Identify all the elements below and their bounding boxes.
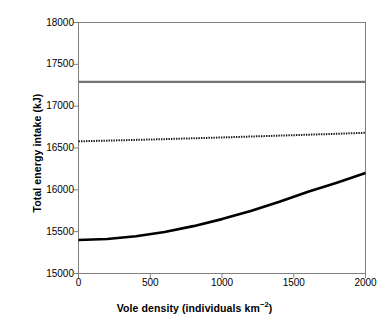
x-tick-label: 2000 <box>336 278 389 288</box>
x-axis-label-main: Vole density (individuals km <box>117 302 260 314</box>
y-tick-label: 17500 <box>14 59 74 69</box>
x-tick-label: 1000 <box>192 278 252 288</box>
axes-frame <box>79 23 366 274</box>
x-axis-label: Vole density (individuals km−2) <box>0 300 389 314</box>
y-tick-label: 18000 <box>14 18 74 28</box>
chart-figure: 15000155001600016500170001750018000 0500… <box>0 0 389 326</box>
x-tick-label: 0 <box>49 278 109 288</box>
series-middle-dotted-line <box>79 133 366 142</box>
x-axis-label-superscript: −2 <box>260 300 269 309</box>
data-series <box>79 82 366 240</box>
y-tick-label: 15500 <box>14 227 74 237</box>
y-tick-label: 15000 <box>14 269 74 279</box>
x-tick-label: 1500 <box>264 278 324 288</box>
y-tick-label: 16000 <box>14 185 74 195</box>
y-axis-label: Total energy intake (kJ) <box>31 53 43 253</box>
axis-ticks <box>74 23 366 279</box>
x-axis-label-tail: ) <box>269 302 273 314</box>
series-lower-rising-curve <box>79 173 366 240</box>
y-tick-label: 16500 <box>14 143 74 153</box>
x-tick-label: 500 <box>120 278 180 288</box>
y-tick-label: 17000 <box>14 101 74 111</box>
